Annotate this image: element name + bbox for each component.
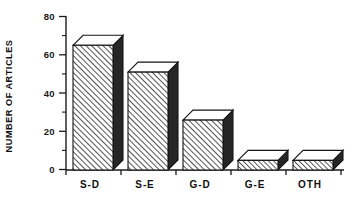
x-category-label-3: G-E xyxy=(245,179,265,190)
x-category-label-0: S-D xyxy=(80,179,100,190)
bar-side-face xyxy=(168,62,178,170)
bar-front-face xyxy=(73,45,113,170)
y-tick-label-20: 20 xyxy=(44,126,55,137)
bar-front-face xyxy=(183,120,223,170)
bar-side-face xyxy=(113,35,123,170)
bar-g-d xyxy=(183,110,233,170)
bar-g-e xyxy=(238,150,288,170)
x-category-label-2: G-D xyxy=(189,179,210,190)
x-category-label-4: OTH xyxy=(298,179,322,190)
bar-s-e xyxy=(128,62,178,170)
bar-front-face xyxy=(238,160,278,170)
x-category-label-1: S-E xyxy=(135,179,154,190)
chart-canvas: NUMBER OF ARTICLES 0 20 40 60 80 xyxy=(0,0,356,201)
y-axis-title: NUMBER OF ARTICLES xyxy=(4,40,14,153)
bar-front-face xyxy=(293,160,333,170)
bar-chart-figure: NUMBER OF ARTICLES 0 20 40 60 80 xyxy=(0,0,356,201)
y-tick-label-40: 40 xyxy=(44,88,55,99)
y-tick-label-0: 0 xyxy=(49,164,55,175)
bar-front-face xyxy=(128,72,168,170)
bar-oth xyxy=(293,150,343,170)
y-tick-label-80: 80 xyxy=(44,11,55,22)
bar-s-d xyxy=(73,35,123,170)
y-tick-label-60: 60 xyxy=(44,49,55,60)
